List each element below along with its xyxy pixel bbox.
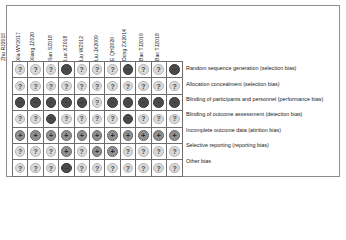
judgement-cell[interactable]: ? [90,78,105,93]
judgement-cell[interactable]: ? [28,111,43,126]
judgement-glyph: − [80,99,84,106]
judgement-cell[interactable]: ? [152,144,167,159]
judgement-cell[interactable]: + [28,128,43,143]
judgement-cell[interactable]: ? [121,78,136,93]
judgement-cell[interactable]: + [44,128,59,143]
judgement-cell[interactable]: ? [105,160,120,175]
judgement-cell[interactable]: ? [44,144,59,159]
judgement-cell[interactable]: + [90,128,105,143]
judgement-glyph: ? [141,164,145,171]
judgement-cell[interactable]: ? [13,78,28,93]
judgement-cell[interactable]: − [59,95,74,110]
judgement-cell[interactable]: ? [136,144,151,159]
judgement-unclear-icon: ? [153,146,164,157]
judgement-glyph: ? [172,148,176,155]
judgement-high-icon: − [46,114,57,125]
judgement-cell[interactable]: ? [44,160,59,175]
judgement-cell[interactable]: − [121,62,136,77]
judgement-cell[interactable]: + [136,128,151,143]
judgement-cell[interactable]: ? [152,111,167,126]
judgement-cell[interactable]: + [13,128,28,143]
judgement-cell[interactable]: ? [90,62,105,77]
judgement-cell[interactable]: ? [152,62,167,77]
judgement-cell[interactable]: + [75,128,90,143]
judgement-glyph: + [141,132,145,139]
judgement-cell[interactable]: ? [75,144,90,159]
judgement-cell[interactable]: ? [105,78,120,93]
judgement-unclear-icon: ? [46,64,57,75]
judgement-cell[interactable]: − [44,95,59,110]
judgement-cell[interactable]: ? [136,78,151,93]
judgement-cell[interactable]: ? [28,144,43,159]
judgement-glyph: + [49,132,53,139]
judgement-cell[interactable]: ? [121,144,136,159]
judgement-high-icon: − [123,97,134,108]
judgement-cell[interactable]: ? [136,160,151,175]
judgement-cell[interactable]: ? [105,111,120,126]
judgement-cell[interactable]: − [152,95,167,110]
judgement-cell[interactable]: − [136,95,151,110]
judgement-unclear-icon: ? [138,146,149,157]
judgement-cell[interactable]: ? [90,95,105,110]
judgement-cell[interactable]: ? [90,160,105,175]
judgement-cell[interactable]: − [167,95,182,110]
judgement-cell[interactable]: ? [90,111,105,126]
judgement-cell[interactable]: ? [105,62,120,77]
judgement-cell[interactable]: − [121,111,136,126]
judgement-cell[interactable]: ? [121,160,136,175]
judgement-cell[interactable]: ? [75,160,90,175]
judgement-cell[interactable]: + [59,128,74,143]
judgement-cell[interactable]: ? [13,111,28,126]
judgement-low-icon: + [107,146,118,157]
judgement-cell[interactable]: ? [28,160,43,175]
judgement-cell[interactable]: − [167,62,182,77]
judgement-cell[interactable]: ? [59,78,74,93]
judgement-unclear-icon: ? [15,81,26,92]
judgement-cell[interactable]: + [59,144,74,159]
judgement-cell[interactable]: + [167,128,182,143]
judgement-cell[interactable]: − [44,111,59,126]
judgement-cell[interactable]: − [59,62,74,77]
judgement-cell[interactable]: ? [44,62,59,77]
judgement-cell[interactable]: ? [167,144,182,159]
judgement-cell[interactable]: − [121,95,136,110]
judgement-cell[interactable]: + [121,128,136,143]
judgement-cell[interactable]: ? [136,62,151,77]
judgement-cell[interactable]: ? [152,160,167,175]
judgement-cell[interactable]: ? [167,78,182,93]
judgement-cell[interactable]: ? [167,160,182,175]
judgement-glyph: ? [80,164,84,171]
judgement-cell[interactable]: ? [44,78,59,93]
judgement-cell[interactable]: ? [13,160,28,175]
judgement-cell[interactable]: + [90,144,105,159]
judgement-cell[interactable]: ? [75,111,90,126]
judgement-cell[interactable]: ? [13,144,28,159]
judgement-cell[interactable]: − [105,95,120,110]
judgement-glyph: + [110,148,114,155]
judgement-cell[interactable]: + [152,128,167,143]
judgement-high-icon: − [169,64,180,75]
judgement-low-icon: + [107,130,118,141]
judgement-cell[interactable]: − [28,95,43,110]
judgement-high-icon: − [61,163,72,174]
judgement-cell[interactable]: ? [75,78,90,93]
judgement-cell[interactable]: + [105,144,120,159]
judgement-unclear-icon: ? [153,163,164,174]
judgement-cell[interactable]: ? [152,78,167,93]
judgement-cell[interactable]: − [13,95,28,110]
judgement-cell[interactable]: ? [75,62,90,77]
judgement-cell[interactable]: + [105,128,120,143]
judgement-cell[interactable]: ? [28,78,43,93]
judgement-cell[interactable]: ? [13,62,28,77]
judgement-cell[interactable]: ? [136,111,151,126]
judgement-cell[interactable]: − [59,160,74,175]
domain-label: Blinding of participants and personnel (… [186,92,323,107]
judgement-low-icon: + [92,146,103,157]
judgement-cell[interactable]: ? [28,62,43,77]
domain-label: Random sequence generation (selection bi… [186,61,323,76]
judgement-cell[interactable]: ? [59,111,74,126]
judgement-glyph: − [126,115,130,122]
judgement-glyph: ? [95,66,99,73]
judgement-cell[interactable]: − [75,95,90,110]
judgement-cell[interactable]: ? [167,111,182,126]
